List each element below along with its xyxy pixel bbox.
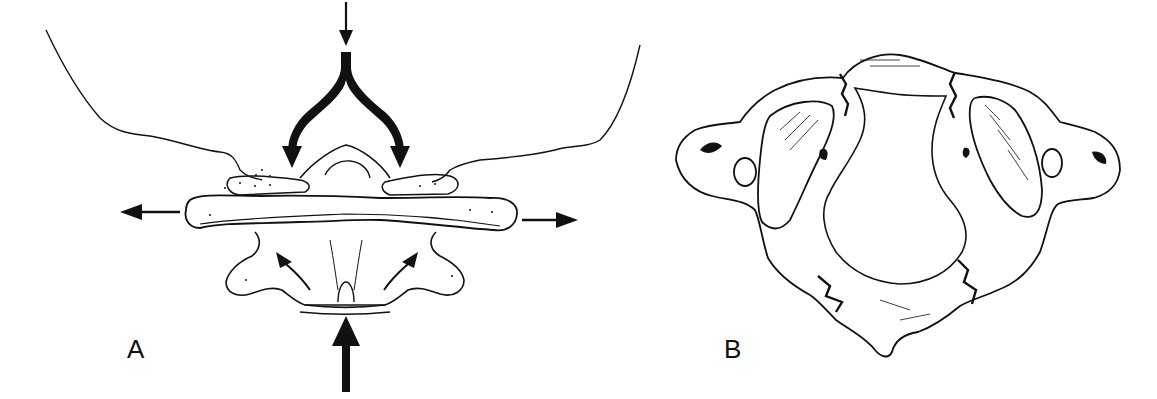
superior-facet-right — [970, 97, 1042, 217]
panel-label-a: A — [127, 334, 144, 365]
inner-right-up-arrow — [384, 262, 410, 290]
lateral-mass-left-upper — [227, 176, 309, 195]
lateral-mass-right-upper — [382, 174, 458, 195]
inner-left-up-arrow — [284, 262, 310, 290]
atlas-bar — [186, 195, 518, 230]
axis-upward-arrowhead — [332, 316, 360, 346]
fracture-posterior-right — [958, 260, 976, 304]
fracture-anterior-right — [950, 72, 956, 118]
skull-outline-right — [432, 45, 640, 182]
skull-outline — [46, 30, 262, 180]
fracture-anterior-left — [840, 74, 848, 116]
fork-left-down-arrowhead — [282, 146, 302, 168]
transverse-foramen-right — [1042, 149, 1062, 177]
axis-upward-arrow-shaft — [342, 344, 350, 392]
transverse-foramen-left — [734, 158, 756, 186]
axis-body — [226, 232, 464, 307]
fork-arrow — [288, 52, 404, 152]
figure-canvas — [0, 0, 1157, 399]
spinous-notch — [338, 282, 354, 302]
panel-label-b: B — [724, 334, 741, 365]
panel-b-atlas-ring — [676, 54, 1120, 356]
atlas-outer-outline — [676, 54, 1120, 356]
superior-facet-left — [758, 101, 834, 228]
fork-right-down-arrowhead — [390, 146, 410, 168]
vertebral-canal — [824, 88, 966, 284]
fracture-posterior-left — [818, 276, 842, 312]
